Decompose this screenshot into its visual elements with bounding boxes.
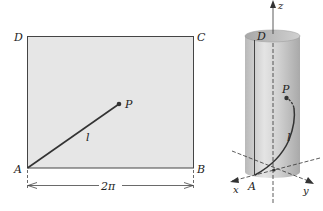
figure-canvas: D C A B P l 2π z x [0, 0, 323, 211]
curve-l-label: l [287, 131, 291, 144]
z-axis-label: z [277, 0, 284, 11]
y-axis-arrow [305, 177, 314, 184]
vertex-c-label: C [197, 31, 206, 44]
width-label: 2π [100, 180, 116, 193]
flat-rectangle-panel: D C A B P l 2π [13, 31, 206, 193]
vertex-b-label: B [196, 163, 205, 176]
rectangle-abcd [28, 37, 194, 169]
y-axis-label: y [302, 185, 309, 196]
point-p [117, 102, 122, 107]
point-p-label: P [124, 98, 133, 111]
x-axis-arrow [230, 177, 239, 183]
width-dimension: 2π [28, 170, 194, 193]
vertex-d-label: D [13, 31, 23, 44]
top-d-label: D [256, 30, 266, 43]
point-p-3d-label: P [281, 83, 290, 96]
vertex-a-label: A [13, 163, 22, 176]
z-axis-arrow [270, 0, 276, 8]
base-a-label: A [247, 180, 256, 193]
cylinder-body [245, 36, 300, 178]
point-p-3d [284, 96, 288, 100]
origin-point [272, 168, 275, 171]
segment-l-label: l [86, 131, 90, 144]
cylinder-panel: z x y D P l A [230, 0, 320, 203]
x-axis-label: x [233, 184, 239, 195]
